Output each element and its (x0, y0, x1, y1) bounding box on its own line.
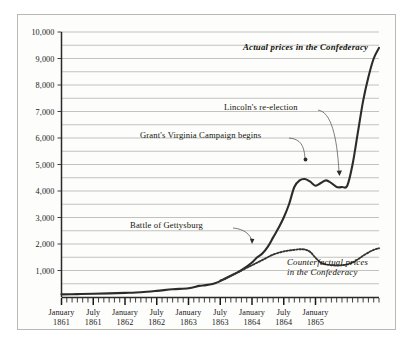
x-tick-year-1861-july: 1861 (85, 318, 102, 327)
x-tick-label-1862-july: July (150, 308, 165, 317)
x-tick-year-1864-july: 1864 (275, 318, 292, 327)
annotation-lincoln: Lincoln's re-election (224, 102, 298, 112)
x-tick-label-1864-january: January (239, 308, 266, 317)
y-tick-label-4000: 4,000 (36, 187, 55, 196)
annotation-grant: Grant's Virginia Campaign begins (140, 130, 262, 140)
y-tick-label-5000: 5,000 (36, 161, 55, 170)
gettysburg-leader-line (233, 228, 252, 241)
series-label-counterfactual-line2: in the Confederacy (287, 267, 358, 277)
x-tick-label-1863-july: July (213, 308, 228, 317)
y-tick-label-9000: 9,000 (36, 55, 55, 64)
lincoln-leader-arrow (337, 171, 342, 176)
x-tick-marks (62, 298, 380, 305)
x-tick-year-1865-january: 1865 (307, 318, 324, 327)
x-tick-labels: January1861July1861January1862July1862Ja… (48, 308, 329, 327)
gettysburg-leader-arrow (250, 239, 255, 244)
series-label-actual: Actual prices in the Confederacy (242, 42, 368, 52)
y-tick-label-10000: 10,000 (31, 28, 54, 37)
y-tick-label-7000: 7,000 (36, 108, 55, 117)
x-tick-label-1861-january: January (48, 308, 75, 317)
gridline-group (62, 32, 380, 284)
price-chart: 1,0002,0003,0004,0005,0006,0007,0008,000… (0, 0, 414, 349)
y-tick-label-6000: 6,000 (36, 134, 55, 143)
x-tick-label-1865-january: January (302, 308, 329, 317)
grant-leader-dot (304, 158, 308, 162)
y-tick-label-2000: 2,000 (36, 240, 55, 249)
x-tick-year-1863-july: 1863 (212, 318, 229, 327)
x-tick-label-1861-july: July (86, 308, 101, 317)
y-tick-labels: 1,0002,0003,0004,0005,0006,0007,0008,000… (31, 28, 54, 276)
grant-leader-line (289, 138, 305, 158)
x-tick-label-1863-january: January (175, 308, 202, 317)
x-tick-year-1863-january: 1863 (180, 318, 197, 327)
x-tick-year-1862-july: 1862 (148, 318, 165, 327)
lincoln-leader-line (318, 110, 339, 172)
y-tick-label-1000: 1,000 (36, 267, 55, 276)
annotation-gettysburg: Battle of Gettysburg (130, 220, 204, 230)
x-tick-year-1861-january: 1861 (53, 318, 70, 327)
x-tick-year-1862-january: 1862 (117, 318, 134, 327)
y-tick-label-3000: 3,000 (36, 214, 55, 223)
x-tick-label-1864-july: July (277, 308, 292, 317)
x-tick-year-1864-january: 1864 (244, 318, 261, 327)
y-tick-label-8000: 8,000 (36, 81, 55, 90)
x-tick-label-1862-january: January (112, 308, 139, 317)
annotation-group: Battle of Gettysburg Grant's Virginia Ca… (130, 102, 342, 244)
series-label-counterfactual-line1: Counterfactual prices (287, 257, 369, 267)
